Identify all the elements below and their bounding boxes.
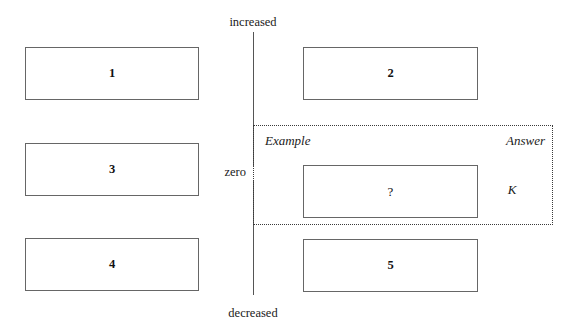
left-box-4-label: 4: [109, 258, 115, 271]
answer-value: K: [508, 183, 517, 196]
answer-caption: Answer: [506, 134, 545, 147]
right-box-5: 5: [303, 239, 478, 292]
axis-label-zero: zero: [224, 166, 246, 179]
left-box-3: 3: [25, 143, 199, 196]
left-box-1-label: 1: [109, 67, 115, 80]
example-caption: Example: [265, 134, 310, 147]
right-box-2: 2: [303, 47, 478, 100]
right-box-question: ?: [303, 165, 478, 218]
axis-label-decreased: decreased: [228, 307, 277, 320]
diagram-canvas: increased zero decreased 1 3 4 2 Example…: [0, 0, 578, 335]
right-box-5-label: 5: [387, 259, 393, 272]
right-box-2-label: 2: [387, 67, 393, 80]
left-box-1: 1: [25, 47, 199, 100]
left-box-3-label: 3: [109, 163, 115, 176]
right-box-question-label: ?: [388, 185, 394, 198]
axis-label-increased: increased: [229, 16, 276, 29]
left-box-4: 4: [25, 238, 199, 291]
